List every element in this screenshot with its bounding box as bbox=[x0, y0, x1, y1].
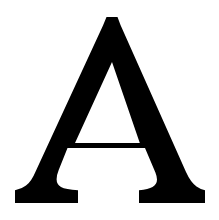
letter-a-glyph bbox=[0, 0, 219, 220]
glyph-canvas: A bbox=[0, 0, 219, 220]
